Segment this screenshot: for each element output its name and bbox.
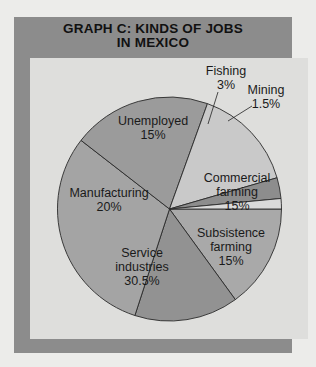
label-fishing: Fishing 3% <box>206 64 246 92</box>
label-unemployed: Unemployed 15% <box>118 114 188 142</box>
label-service-industries: Service industries 30.5% <box>115 246 169 288</box>
label-manufacturing: Manufacturing 20% <box>69 186 148 214</box>
label-commercial-farming: Commercial farming 15% <box>204 171 271 213</box>
label-mining: Mining 1.5% <box>248 83 285 111</box>
label-subsistence-farming: Subsistence farming 15% <box>197 226 265 268</box>
